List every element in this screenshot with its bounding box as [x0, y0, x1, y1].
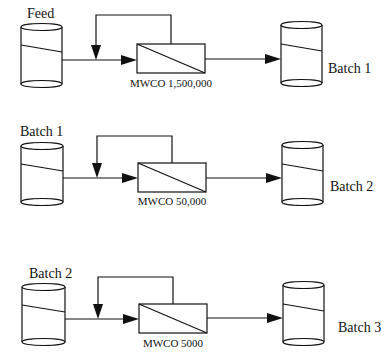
- source-label: Batch 1: [20, 124, 63, 139]
- product-tank-icon: [281, 22, 322, 87]
- source-tank-icon: [21, 24, 62, 88]
- source-tank-icon: [21, 143, 63, 206]
- arrow-icon: [266, 173, 282, 183]
- source-label: Batch 2: [29, 266, 72, 281]
- arrow-icon: [267, 313, 283, 323]
- membrane-label: MWCO 5000: [143, 337, 204, 349]
- stage-2: Batch 1 MWCO 50,000 Batch 2: [20, 124, 373, 207]
- arrow-down-icon: [93, 304, 103, 319]
- stage-1: Feed MWCO 1,500,000: [21, 6, 371, 89]
- arrow-down-icon: [92, 163, 102, 178]
- ultrafiltration-diagram: Feed MWCO 1,500,000: [0, 0, 392, 359]
- source-tank-icon: [22, 284, 65, 346]
- product-label: Batch 2: [330, 179, 373, 194]
- arrow-icon: [123, 314, 139, 324]
- arrow-icon: [122, 173, 138, 183]
- product-label: Batch 3: [338, 320, 381, 335]
- membrane-label: MWCO 50,000: [138, 195, 207, 207]
- stage-3: Batch 2 MWCO 5000 Batch 3: [22, 266, 381, 349]
- membrane-module-icon: [139, 304, 207, 333]
- membrane-module-icon: [137, 44, 205, 73]
- product-label: Batch 1: [328, 61, 371, 76]
- product-tank-icon: [283, 282, 324, 346]
- product-tank-icon: [282, 142, 323, 206]
- arrow-down-icon: [91, 45, 101, 60]
- arrow-icon: [265, 54, 281, 64]
- membrane-label: MWCO 1,500,000: [130, 77, 213, 89]
- membrane-module-icon: [138, 163, 206, 192]
- source-label: Feed: [27, 6, 54, 21]
- arrow-icon: [121, 55, 137, 65]
